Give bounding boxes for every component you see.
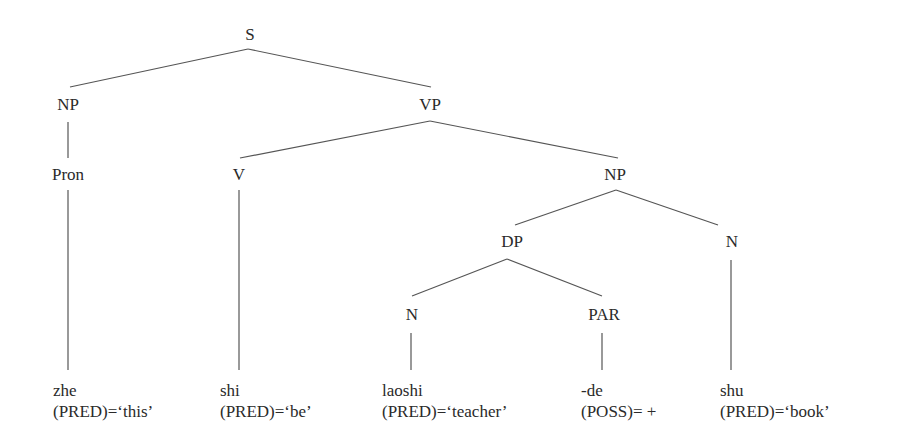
node-np-object: NP (604, 165, 626, 185)
edge-vp-v (240, 121, 430, 158)
edge-dp-par (507, 259, 602, 296)
leaf-word: shi (220, 380, 312, 401)
node-dp: DP (501, 232, 523, 252)
leaf-feature: (PRED)=‘teacher’ (382, 401, 507, 422)
leaf-feature: (POSS)= + (581, 401, 656, 422)
leaf-word: shu (720, 380, 830, 401)
edge-dp-n (412, 259, 507, 296)
node-vp: VP (419, 95, 441, 115)
leaf-word: zhe (53, 380, 153, 401)
leaf-word: laoshi (382, 380, 507, 401)
leaf-shi: shi (PRED)=‘be’ (220, 380, 312, 422)
edge-s-np (70, 49, 248, 87)
node-s: S (245, 25, 254, 45)
edge-np-n (616, 190, 718, 225)
node-par: PAR (588, 305, 620, 325)
node-n-dp: N (406, 305, 418, 325)
node-pron: Pron (52, 165, 84, 185)
leaf-feature: (PRED)=‘book’ (720, 401, 830, 422)
node-n-head: N (726, 232, 738, 252)
leaf-de: -de (POSS)= + (581, 380, 656, 422)
tree-edges (0, 0, 910, 445)
leaf-word: -de (581, 380, 656, 401)
edge-vp-np (430, 121, 618, 158)
edge-np-dp (515, 190, 616, 225)
leaf-zhe: zhe (PRED)=‘this’ (53, 380, 153, 422)
node-v: V (233, 165, 245, 185)
leaf-shu: shu (PRED)=‘book’ (720, 380, 830, 422)
leaf-laoshi: laoshi (PRED)=‘teacher’ (382, 380, 507, 422)
leaf-feature: (PRED)=‘this’ (53, 401, 153, 422)
node-np-subject: NP (57, 95, 79, 115)
leaf-feature: (PRED)=‘be’ (220, 401, 312, 422)
edge-s-vp (248, 49, 431, 87)
